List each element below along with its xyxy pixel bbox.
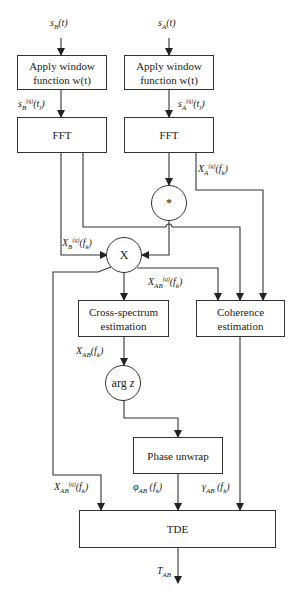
phase-unwrap-block: Phase unwrap xyxy=(133,437,223,474)
XA-label: XA(q)(fk) xyxy=(198,163,228,177)
sA-windowed-label: sA(q)(tl) xyxy=(178,98,205,112)
XAB-q-tde-label: XAB(q)(fk) xyxy=(54,481,88,495)
XB-label: XB(q)(fk) xyxy=(62,237,92,251)
XAB-label: XAB(fk) xyxy=(76,345,103,359)
sB-windowed-label: sB(q)(tl) xyxy=(18,98,45,112)
window-right-block: Apply window function w(t) xyxy=(124,55,214,90)
arg-node: arg z xyxy=(105,365,141,401)
gamma-label: γAB (fk) xyxy=(202,481,230,495)
coherence-block: Coherence estimation xyxy=(196,300,285,337)
input-sA-label: sA(t) xyxy=(158,17,176,31)
multiply-node: X xyxy=(106,237,142,273)
XAB-q-label: XAB(q)(fk) xyxy=(148,276,182,290)
fft-right-block: FFT xyxy=(124,117,214,153)
cross-spectrum-block: Cross-spectrum estimation xyxy=(78,300,169,337)
conjugate-node: * xyxy=(151,185,187,221)
fft-left-block: FFT xyxy=(17,117,107,153)
input-sB-label: sB(t) xyxy=(50,17,68,31)
window-left-block: Apply window function w(t) xyxy=(17,55,107,90)
tde-block: TDE xyxy=(79,510,276,548)
output-label: TAB xyxy=(157,565,171,579)
phi-label: φAB (fk) xyxy=(133,481,162,495)
